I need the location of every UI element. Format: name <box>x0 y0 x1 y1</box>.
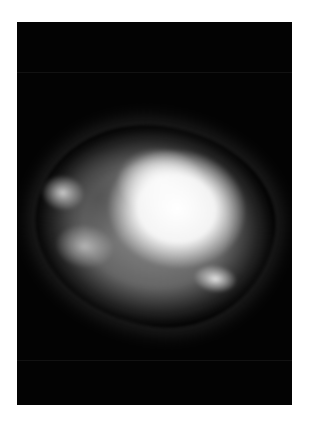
specimen-xray <box>22 110 287 341</box>
film-artifact-line <box>17 72 292 73</box>
film-artifact-line <box>17 360 292 361</box>
radiograph-film <box>17 22 292 405</box>
